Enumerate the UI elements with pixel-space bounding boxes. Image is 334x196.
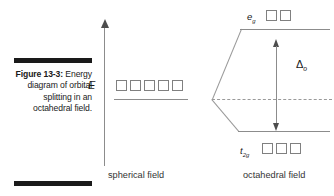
octahedral-field-caption: octahedral field <box>243 170 305 180</box>
spherical-field-caption: spherical field <box>108 170 164 180</box>
eg-orbital-box <box>266 10 277 21</box>
figure-caption-block: Figure 13-3: Energy diagram of orbital s… <box>14 58 92 115</box>
t2g-orbital-box <box>290 143 301 154</box>
figure-page: Figure 13-3: Energy diagram of orbital s… <box>0 0 334 196</box>
spherical-level-line <box>114 99 188 100</box>
caption-rule-bottom <box>14 181 92 186</box>
spherical-orbital-box <box>116 80 127 91</box>
eg-orbital-box <box>280 10 291 21</box>
subscript: g <box>252 18 255 24</box>
delta-arrow-shaft <box>276 46 277 126</box>
spherical-orbital-box <box>144 80 155 91</box>
eg-orbital-boxes <box>266 10 291 21</box>
t2g-orbital-boxes <box>262 143 301 154</box>
t2g-orbital-box <box>262 143 273 154</box>
energy-axis-label: E <box>88 79 95 91</box>
figure-number-label: Figure 13-3: <box>16 69 64 79</box>
energy-axis-arrow-icon <box>101 19 109 28</box>
delta-splitting-label: Δo <box>296 58 307 72</box>
energy-axis-line <box>104 26 105 166</box>
delta-arrow-head-bottom-icon <box>273 123 279 131</box>
t2g-orbital-box <box>276 143 287 154</box>
figure-caption-text: Figure 13-3: Energy diagram of orbital s… <box>14 63 92 115</box>
correlation-line-lower <box>211 99 239 132</box>
subscript: o <box>303 65 307 72</box>
t2g-term-label: t2g <box>240 145 249 158</box>
spherical-orbital-box <box>158 80 169 91</box>
barycenter-dashed-line <box>212 99 332 100</box>
t2g-level-line <box>238 131 330 132</box>
correlation-line-upper <box>212 29 242 99</box>
eg-level-line <box>240 29 330 30</box>
spherical-orbital-box <box>172 80 183 91</box>
eg-term-label: eg <box>247 11 256 24</box>
subscript: 2g <box>243 152 250 158</box>
spherical-orbital-boxes <box>116 80 183 91</box>
spherical-orbital-box <box>130 80 141 91</box>
